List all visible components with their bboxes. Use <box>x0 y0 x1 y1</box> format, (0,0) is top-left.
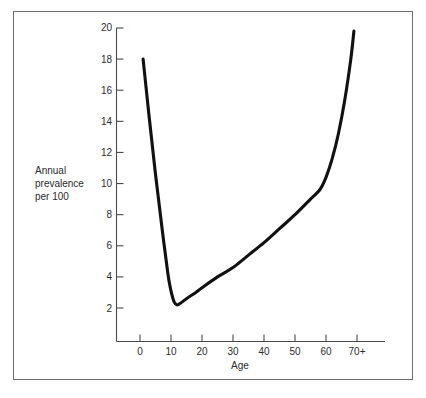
x-axis-title: Age <box>231 360 249 371</box>
x-tick-label: 0 <box>137 346 143 357</box>
y-tick-label: 20 <box>101 22 113 33</box>
x-tick-label: 10 <box>165 346 177 357</box>
y-tick-label: 8 <box>106 209 112 220</box>
x-tick-label: 60 <box>320 346 332 357</box>
x-tick-label: 30 <box>227 346 239 357</box>
line-chart: 2468101214161820 010203040506070+ Age <box>0 0 426 398</box>
figure-root: Annual prevalence per 100 24681012141618… <box>0 0 426 398</box>
x-tick-label: 50 <box>289 346 301 357</box>
x-tick-label: 20 <box>196 346 208 357</box>
y-tick-label: 2 <box>106 303 112 314</box>
y-tick-label: 16 <box>101 85 113 96</box>
y-tick-label: 18 <box>101 54 113 65</box>
x-tick-label: 40 <box>258 346 270 357</box>
x-tick-label: 70+ <box>349 346 366 357</box>
y-tick-label: 12 <box>101 147 113 158</box>
y-tick-label: 14 <box>101 116 113 127</box>
y-tick-label: 6 <box>106 240 112 251</box>
x-axis-ticks: 010203040506070+ <box>137 335 365 358</box>
prevalence-curve <box>143 31 354 305</box>
y-tick-label: 4 <box>106 271 112 282</box>
y-tick-label: 10 <box>101 178 113 189</box>
y-axis-ticks: 2468101214161820 <box>101 22 124 313</box>
